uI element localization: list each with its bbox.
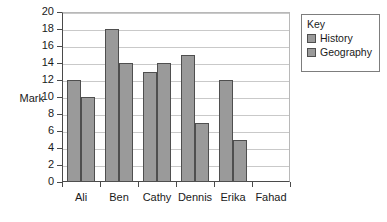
legend-entries: HistoryGeography: [307, 32, 379, 59]
bar: [119, 63, 133, 182]
bar: [233, 140, 247, 183]
bars-layer: [62, 12, 290, 182]
bar-chart: Mark 02468101214161820 AliBenCathyDennis…: [0, 0, 387, 222]
y-axis-tick-label: 12: [28, 74, 54, 85]
legend-entry-label: Geography: [320, 46, 372, 59]
legend-entry: History: [307, 32, 379, 45]
x-axis-tick-label: Dennis: [176, 191, 214, 203]
y-axis-tick-label: 4: [28, 142, 54, 153]
bar: [195, 123, 209, 183]
x-axis-tick: [100, 182, 101, 187]
x-axis-tick-label: Ali: [62, 191, 100, 203]
legend-swatch-icon: [307, 34, 316, 43]
x-axis-tick: [138, 182, 139, 187]
bar: [143, 72, 157, 183]
x-axis-tick: [176, 182, 177, 187]
y-axis-tick-label: 2: [28, 159, 54, 170]
y-axis-tick-label: 8: [28, 108, 54, 119]
x-axis-tick-label: Fahad: [252, 191, 290, 203]
y-axis-tick-label: 10: [28, 91, 54, 102]
bar: [219, 80, 233, 182]
x-axis-tick-label: Cathy: [138, 191, 176, 203]
legend-swatch-icon: [307, 48, 316, 57]
x-axis-tick: [290, 182, 291, 187]
y-axis-tick-label: 6: [28, 125, 54, 136]
legend-entry-label: History: [320, 32, 353, 45]
x-axis-tick-label: Ben: [100, 191, 138, 203]
x-axis-tick-label: Erika: [214, 191, 252, 203]
bar: [105, 29, 119, 182]
y-axis-tick-label: 18: [28, 23, 54, 34]
x-axis-tick: [252, 182, 253, 187]
legend-entry: Geography: [307, 46, 379, 59]
y-axis-tick-label: 0: [28, 176, 54, 187]
bar: [157, 63, 171, 182]
y-axis-tick-label: 16: [28, 40, 54, 51]
legend: Key HistoryGeography: [301, 14, 380, 72]
y-axis-tick-label: 20: [28, 6, 54, 17]
bar: [81, 97, 95, 182]
bar: [181, 55, 195, 183]
legend-title: Key: [307, 18, 379, 31]
x-axis-tick: [62, 182, 63, 187]
x-axis-tick: [214, 182, 215, 187]
y-axis-tick-label: 14: [28, 57, 54, 68]
bar: [67, 80, 81, 182]
